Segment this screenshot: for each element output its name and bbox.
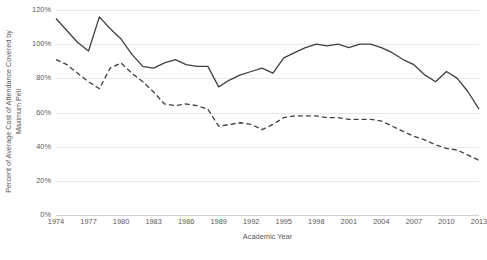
y-axis-title-line-1: Percent of Average Cost of Attendance Co… (4, 30, 14, 193)
y-axis-title-line-2: Maximum Pell (13, 30, 23, 193)
series-line-solid (56, 17, 479, 109)
x-tick-label-1998: 1998 (308, 217, 324, 227)
y-tick-label-60%: 60% (36, 109, 51, 117)
x-tick-label-1980: 1980 (113, 217, 129, 227)
x-tick-label-1983: 1983 (145, 217, 161, 227)
series-container (56, 10, 479, 215)
y-axis-tick-labels: 0%20%40%60%80%100%120% (26, 0, 54, 222)
x-tick-label-1974: 1974 (48, 217, 64, 227)
gridline-0 (56, 215, 479, 216)
series-line-dashed (56, 60, 479, 161)
x-tick-label-1986: 1986 (178, 217, 194, 227)
plot-area (56, 10, 479, 215)
y-tick-label-120%: 120% (32, 6, 51, 14)
x-tick-label-2007: 2007 (406, 217, 422, 227)
y-axis-title: Percent of Average Cost of Attendance Co… (0, 0, 26, 222)
x-axis-title: Academic Year (56, 232, 479, 241)
x-axis-tick-labels: 1974197719801983198619891992199519982001… (56, 217, 479, 231)
x-tick-label-2010: 2010 (438, 217, 454, 227)
y-tick-label-80%: 80% (36, 74, 51, 82)
x-tick-label-1977: 1977 (80, 217, 96, 227)
y-tick-label-20%: 20% (36, 177, 51, 185)
x-tick-label-2001: 2001 (341, 217, 357, 227)
x-tick-label-1989: 1989 (210, 217, 226, 227)
y-tick-label-100%: 100% (32, 40, 51, 48)
x-tick-label-1995: 1995 (276, 217, 292, 227)
x-tick-label-2004: 2004 (373, 217, 389, 227)
x-tick-label-2013: 2013 (471, 217, 487, 227)
y-tick-label-40%: 40% (36, 143, 51, 151)
x-tick-label-1992: 1992 (243, 217, 259, 227)
